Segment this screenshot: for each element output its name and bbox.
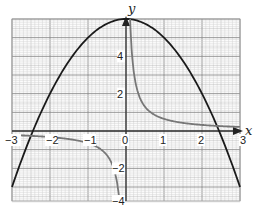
function-graph: −3−2−1012342−2−4xy [0,0,259,210]
x-tick-label: 1 [160,134,166,146]
x-tick-label: 2 [198,134,204,146]
x-axis-label: x [245,123,253,138]
x-tick-label: −2 [46,134,59,146]
y-tick-label: −4 [112,195,125,207]
y-tick-label: 2 [117,88,123,100]
x-tick-label: 0 [122,134,128,146]
y-axis-label: y [127,1,136,16]
y-tick-label: 4 [117,50,123,62]
x-tick-label: −3 [5,134,18,146]
x-tick-label: −1 [84,134,97,146]
y-tick-label: −2 [112,162,125,174]
